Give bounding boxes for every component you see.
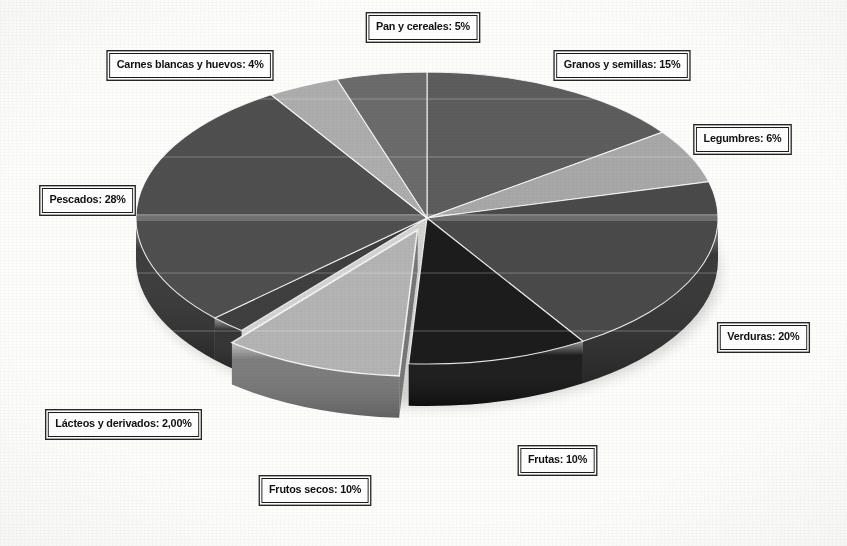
callout-label-granos-y-semillas: Granos y semillas: 15%	[556, 53, 688, 78]
callout-label-frutas: Frutas: 10%	[520, 448, 594, 473]
callout-label-frutos-secos: Frutos secos: 10%	[261, 478, 368, 503]
pie-svg	[0, 0, 847, 546]
callout-label-pan-y-cereales: Pan y cereales: 5%	[368, 15, 477, 40]
pie-chart-3d	[0, 0, 847, 546]
callout-label-lacteos-y-derivados: Lácteos y derivados: 2,00%	[48, 412, 199, 437]
callout-label-legumbres: Legumbres: 6%	[696, 127, 789, 152]
chart-canvas: Pan y cereales: 5%Carnes blancas y huevo…	[0, 0, 847, 546]
callout-label-verduras: Verduras: 20%	[720, 325, 807, 350]
callout-label-carnes-blancas-y-huevos: Carnes blancas y huevos: 4%	[109, 53, 271, 78]
callout-label-pescados: Pescados: 28%	[42, 188, 133, 213]
